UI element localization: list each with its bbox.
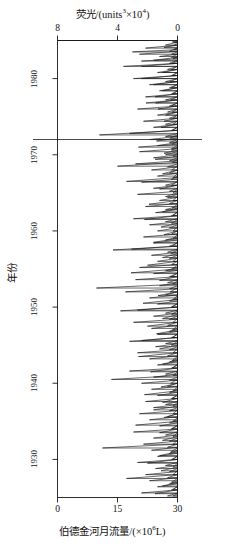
plot-svg (0, 0, 225, 546)
river-flow-trace (126, 42, 178, 496)
fluorescence-trace (97, 42, 178, 496)
figure-panel: 荧光/(units3×104) 伯德金河月流量/(×106L) 年份 84001… (0, 0, 225, 546)
